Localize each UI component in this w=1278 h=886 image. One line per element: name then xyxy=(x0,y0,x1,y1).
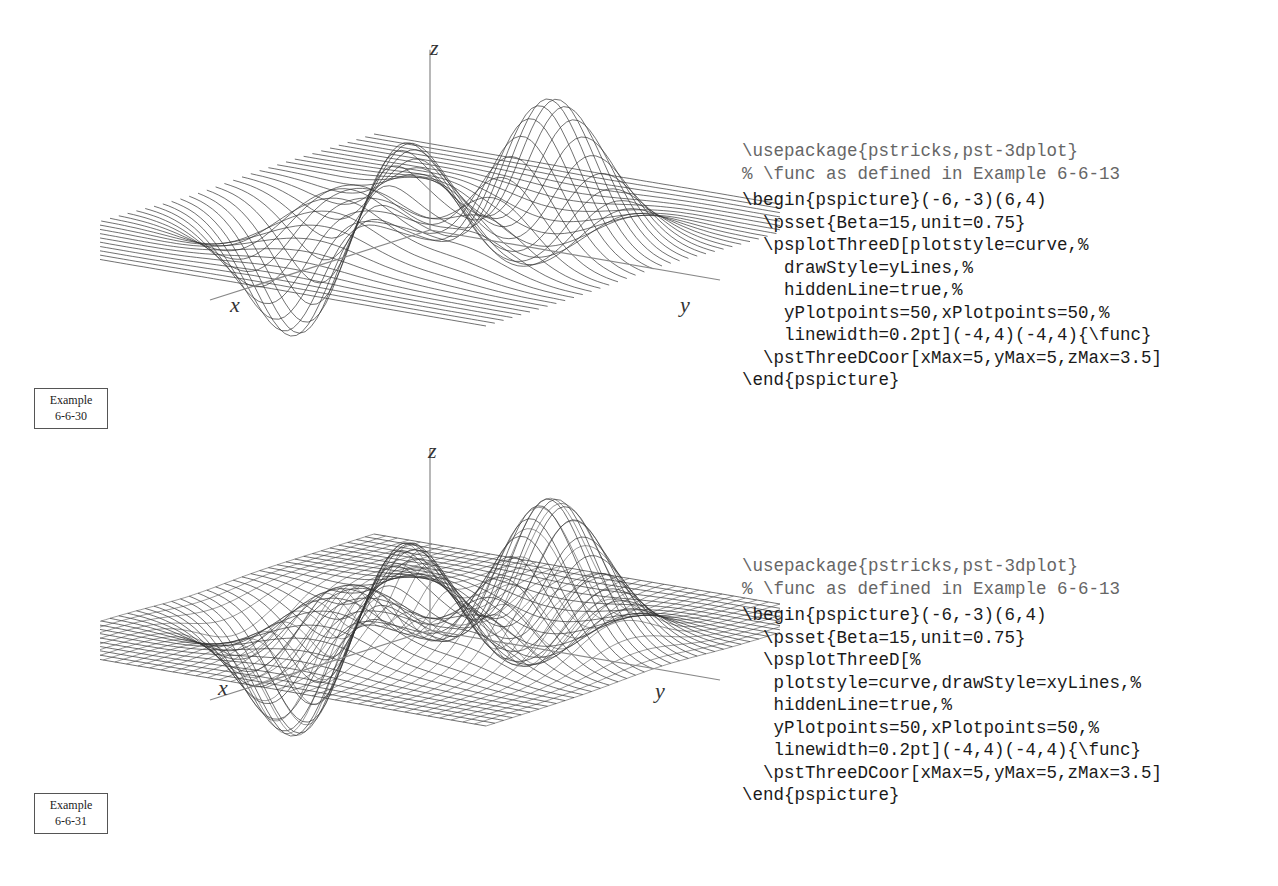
surface-curve xyxy=(100,232,530,312)
code-line: hiddenLine=true,% xyxy=(742,279,1162,302)
x-axis-label: x xyxy=(217,675,228,700)
code-line: \begin{pspicture}(-6,-3)(6,4) xyxy=(742,604,1162,627)
surface-curve xyxy=(321,151,780,231)
code-line: \end{pspicture} xyxy=(742,784,1162,807)
surface-curve xyxy=(365,537,780,617)
surface-curve xyxy=(382,503,734,708)
surface-curve xyxy=(100,632,530,712)
surface-curve xyxy=(356,140,780,220)
surface-curve xyxy=(295,559,759,646)
example-label: Example xyxy=(35,797,107,813)
example-label: Example xyxy=(35,392,107,408)
surface-curve xyxy=(216,107,680,283)
x-axis-label: x xyxy=(229,292,240,317)
code-line: yPlotpoints=50,xPlotpoints=50,% xyxy=(742,717,1162,740)
code-line: \pstThreeDCoor[xMax=5,yMax=5,zMax=3.5] xyxy=(742,762,1162,785)
code-line: drawStyle=yLines,% xyxy=(742,257,1162,280)
surface-curve xyxy=(189,506,653,733)
code-line: \psset{Beta=15,unit=0.75} xyxy=(742,212,1162,235)
code-line: plotstyle=curve,drawStyle=xyLines,% xyxy=(742,672,1162,695)
code-line: \pstThreeDCoor[xMax=5,yMax=5,zMax=3.5] xyxy=(742,347,1162,370)
y-axis-label: y xyxy=(653,678,665,703)
x-axis xyxy=(210,630,430,700)
code-line: \usepackage{pstricks,pst-3dplot} xyxy=(742,140,1162,163)
coordinate-axes xyxy=(210,50,720,300)
surface-curve xyxy=(136,188,600,288)
surface-curve xyxy=(356,540,780,620)
code-line: \psset{Beta=15,unit=0.75} xyxy=(742,627,1162,650)
surface-curve xyxy=(216,507,680,683)
code-line: % \func as defined in Example 6-6-13 xyxy=(742,163,1162,186)
code-line: \psplotThreeD[plotstyle=curve,% xyxy=(742,234,1162,257)
surface-curve xyxy=(100,235,521,315)
y-axis xyxy=(430,630,720,680)
y-axis-label: y xyxy=(678,292,690,317)
code-line: \end{pspicture} xyxy=(742,369,1162,392)
surface-curve xyxy=(393,521,745,710)
code-listing-6-6-31: \usepackage{pstricks,pst-3dplot}% \func … xyxy=(742,555,1162,807)
code-line: \usepackage{pstricks,pst-3dplot} xyxy=(742,555,1162,578)
code-line: \psplotThreeD[% xyxy=(742,649,1162,672)
example-label-box: Example 6-6-30 xyxy=(34,388,108,429)
surface-curve xyxy=(100,624,556,704)
surface-curve xyxy=(136,588,600,688)
x-axis xyxy=(210,230,430,300)
code-line: hiddenLine=true,% xyxy=(742,694,1162,717)
example-number: 6-6-30 xyxy=(35,408,107,424)
z-axis-label: z xyxy=(427,438,437,463)
surface-curve xyxy=(295,159,759,246)
surface-curve xyxy=(100,224,556,304)
code-listing-6-6-30: \usepackage{pstricks,pst-3dplot}% \func … xyxy=(742,140,1162,392)
surface-curve xyxy=(474,612,780,724)
surface-plot-xylines: x y z xyxy=(100,400,780,820)
example-number: 6-6-31 xyxy=(35,813,107,829)
surface-curve xyxy=(304,156,768,236)
surface-curve xyxy=(486,614,780,726)
z-axis-label: z xyxy=(429,35,439,60)
code-line: linewidth=0.2pt](-4,4)(-4,4){\func} xyxy=(742,739,1162,762)
surface-lines xyxy=(100,99,780,336)
surface-curve xyxy=(463,610,780,722)
surface-lines xyxy=(100,498,780,736)
code-line: yPlotpoints=50,xPlotpoints=50,% xyxy=(742,302,1162,325)
code-line: % \func as defined in Example 6-6-13 xyxy=(742,578,1162,601)
surface-curve xyxy=(189,106,653,333)
surface-plot-ylines: x y z xyxy=(100,0,780,420)
y-axis xyxy=(430,230,720,280)
surface-curve xyxy=(365,137,780,217)
example-label-box: Example 6-6-31 xyxy=(34,793,108,834)
code-line: \begin{pspicture}(-6,-3)(6,4) xyxy=(742,189,1162,212)
surface-curve xyxy=(286,162,750,258)
code-line: linewidth=0.2pt](-4,4)(-4,4){\func} xyxy=(742,324,1162,347)
